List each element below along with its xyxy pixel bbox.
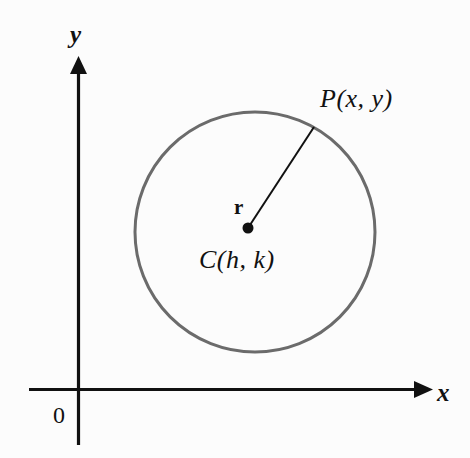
y-axis — [70, 56, 87, 445]
center-point-label: C(h, k) — [199, 247, 275, 273]
circle-outline — [135, 112, 375, 352]
circle-diagram-figure: y x 0 r C(h, k) P(x, y) — [0, 0, 470, 458]
x-axis-label: x — [437, 380, 450, 405]
y-axis-arrowhead-icon — [70, 56, 87, 74]
y-axis-label: y — [70, 22, 81, 47]
x-axis-arrowhead-icon — [414, 381, 433, 398]
x-axis — [29, 381, 433, 398]
origin-label: 0 — [53, 403, 65, 427]
diagram-canvas — [0, 0, 470, 458]
radius-label: r — [234, 197, 243, 218]
radius-segment — [248, 127, 314, 228]
circumference-point-label: P(x, y) — [320, 86, 393, 112]
center-point-dot — [243, 223, 254, 234]
